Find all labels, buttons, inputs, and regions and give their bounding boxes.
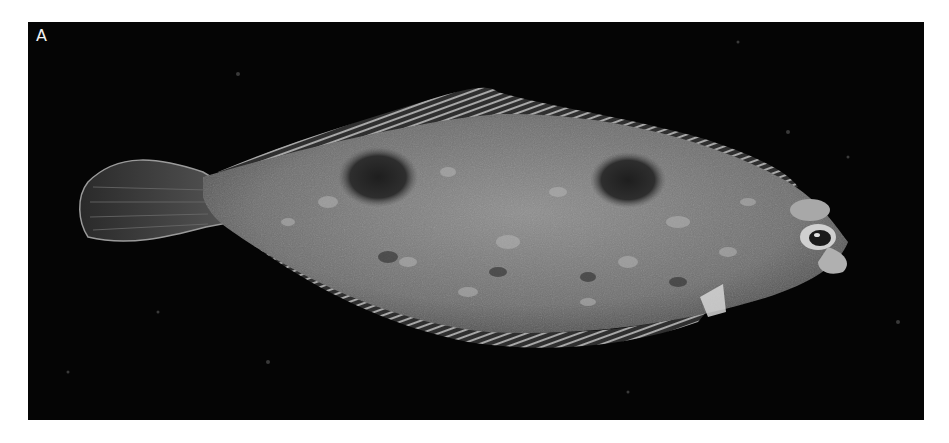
upper-eye — [790, 199, 830, 221]
dark-spot-2 — [590, 152, 666, 208]
panel-label: A — [36, 28, 47, 44]
dark-spot-1 — [338, 147, 418, 207]
fish-photograph: A — [28, 22, 924, 420]
flatfish-illustration — [28, 22, 924, 420]
